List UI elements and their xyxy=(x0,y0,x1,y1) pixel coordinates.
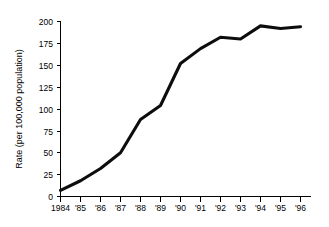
y-axis-ticks xyxy=(57,22,61,197)
y-tick-label-150: 150 xyxy=(39,61,53,71)
x-tick-label-1987: '87 xyxy=(115,203,126,213)
x-tick-label-1990: '90 xyxy=(175,203,186,213)
chart-canvas: 0 25 50 75 100 125 150 175 200 xyxy=(0,0,329,227)
x-tick-label-1992: '92 xyxy=(215,203,226,213)
data-series-line xyxy=(61,26,301,191)
x-tick-label-1985: '85 xyxy=(75,203,86,213)
x-tick-label-1986: '86 xyxy=(95,203,106,213)
x-axis-tick-labels: 1984 '85 '86 '87 '88 '89 '90 '91 '92 '93… xyxy=(51,203,306,213)
x-tick-label-1995: '95 xyxy=(275,203,286,213)
x-tick-label-1984: 1984 xyxy=(51,203,70,213)
y-axis-tick-labels: 0 25 50 75 100 125 150 175 200 xyxy=(39,17,53,202)
y-tick-label-125: 125 xyxy=(39,83,53,93)
y-tick-label-200: 200 xyxy=(39,17,53,27)
x-axis-ticks xyxy=(61,197,301,202)
y-tick-label-25: 25 xyxy=(44,170,54,180)
line-chart: 0 25 50 75 100 125 150 175 200 xyxy=(0,0,329,227)
x-tick-label-1988: '88 xyxy=(135,203,146,213)
y-tick-label-100: 100 xyxy=(39,105,53,115)
y-tick-label-50: 50 xyxy=(44,148,54,158)
y-tick-label-175: 175 xyxy=(39,39,53,49)
x-tick-label-1993: '93 xyxy=(235,203,246,213)
x-tick-label-1996: '96 xyxy=(295,203,306,213)
x-tick-label-1994: '94 xyxy=(255,203,266,213)
y-tick-label-0: 0 xyxy=(48,192,53,202)
y-axis-title: Rate (per 100,000 population) xyxy=(14,49,24,169)
y-tick-label-75: 75 xyxy=(44,127,54,137)
x-tick-label-1989: '89 xyxy=(155,203,166,213)
x-tick-label-1991: '91 xyxy=(195,203,206,213)
